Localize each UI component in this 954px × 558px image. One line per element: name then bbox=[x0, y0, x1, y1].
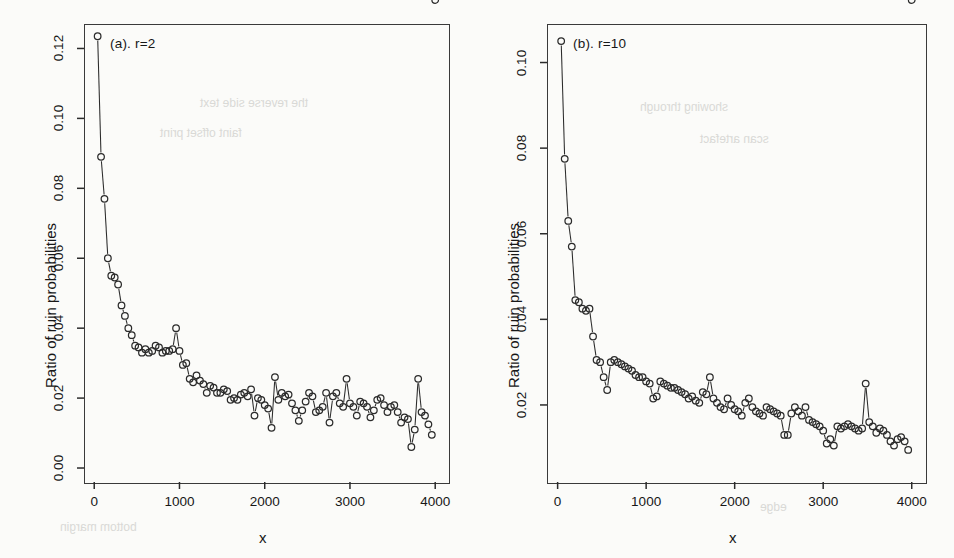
data-point bbox=[173, 325, 180, 332]
y-tick-label: 0.08 bbox=[513, 135, 528, 161]
data-point bbox=[105, 255, 112, 262]
chart-panel-b: (b). r=10 Ratio of ruin probabilities x … bbox=[463, 0, 954, 558]
data-point bbox=[742, 400, 749, 407]
data-point bbox=[408, 444, 415, 451]
x-tick-label: 3000 bbox=[783, 494, 863, 509]
data-point bbox=[820, 427, 827, 434]
data-point bbox=[248, 386, 255, 393]
y-tick-label: 0.02 bbox=[50, 385, 65, 411]
data-point bbox=[873, 429, 880, 436]
y-tick-label: 0.00 bbox=[50, 455, 65, 481]
data-point bbox=[125, 325, 132, 332]
data-point bbox=[425, 421, 432, 428]
data-point bbox=[590, 333, 597, 340]
x-tick-label: 1000 bbox=[139, 494, 219, 509]
data-point bbox=[600, 374, 607, 381]
data-point bbox=[795, 408, 802, 415]
data-point bbox=[799, 412, 806, 419]
plot-svg-a bbox=[0, 0, 477, 558]
data-point bbox=[604, 387, 611, 394]
data-point bbox=[299, 407, 306, 414]
data-point bbox=[901, 438, 908, 445]
data-point bbox=[891, 442, 898, 449]
data-point bbox=[94, 33, 101, 40]
data-point bbox=[429, 432, 436, 439]
data-point bbox=[728, 402, 735, 409]
data-point bbox=[411, 426, 418, 433]
data-point bbox=[251, 412, 258, 419]
data-point bbox=[343, 376, 350, 383]
data-point bbox=[561, 156, 568, 163]
x-tick-label: 1000 bbox=[606, 494, 686, 509]
data-point bbox=[275, 397, 282, 404]
data-point bbox=[802, 404, 809, 411]
data-point bbox=[101, 196, 108, 203]
data-point bbox=[323, 390, 330, 397]
data-point bbox=[371, 407, 378, 414]
x-tick-label: 2000 bbox=[695, 494, 775, 509]
data-point bbox=[296, 418, 303, 425]
y-tick-label: 0.06 bbox=[50, 245, 65, 271]
y-tick-label: 0.04 bbox=[50, 315, 65, 341]
data-point bbox=[862, 380, 869, 387]
data-point bbox=[115, 281, 122, 288]
data-point bbox=[118, 302, 125, 309]
data-point bbox=[869, 423, 876, 430]
y-tick-label: 0.06 bbox=[513, 221, 528, 247]
data-point bbox=[432, 0, 439, 3]
x-tick-label: 0 bbox=[54, 494, 134, 509]
data-point bbox=[866, 419, 873, 426]
data-point bbox=[203, 390, 210, 397]
y-tick-label: 0.10 bbox=[50, 105, 65, 131]
figure: the reverse side text faint offset print… bbox=[0, 0, 954, 558]
data-point bbox=[272, 374, 279, 381]
data-point bbox=[746, 395, 753, 402]
data-point bbox=[714, 400, 721, 407]
data-point bbox=[302, 398, 309, 405]
y-tick-label: 0.08 bbox=[50, 175, 65, 201]
data-point bbox=[394, 409, 401, 416]
x-tick-label: 0 bbox=[518, 494, 598, 509]
data-point bbox=[326, 419, 333, 426]
data-point bbox=[749, 404, 756, 411]
chart-panel-a: (a). r=2 Ratio of ruin probabilities x 0… bbox=[0, 0, 477, 558]
y-tick-label: 0.04 bbox=[513, 306, 528, 332]
data-point bbox=[710, 395, 717, 402]
data-point bbox=[884, 432, 891, 439]
data-point bbox=[268, 425, 275, 432]
data-point bbox=[568, 243, 575, 250]
data-point bbox=[128, 332, 135, 339]
data-point bbox=[558, 38, 565, 45]
data-point bbox=[827, 436, 834, 443]
data-point bbox=[738, 412, 745, 419]
data-point bbox=[415, 376, 422, 383]
data-point bbox=[707, 374, 714, 381]
data-point bbox=[823, 440, 830, 447]
data-point bbox=[788, 410, 795, 417]
data-point bbox=[292, 407, 299, 414]
data-point bbox=[724, 395, 731, 402]
data-point bbox=[353, 412, 360, 419]
y-tick-label: 0.12 bbox=[50, 35, 65, 61]
y-tick-label: 0.02 bbox=[513, 392, 528, 418]
x-tick-label: 2000 bbox=[225, 494, 305, 509]
data-point bbox=[831, 442, 838, 449]
data-point bbox=[887, 438, 894, 445]
data-point bbox=[908, 0, 915, 3]
data-point bbox=[792, 404, 799, 411]
x-tick-label: 3000 bbox=[310, 494, 390, 509]
data-point bbox=[381, 402, 388, 409]
data-point bbox=[565, 218, 572, 225]
data-point bbox=[98, 154, 105, 161]
y-tick-label: 0.10 bbox=[513, 49, 528, 75]
data-point bbox=[122, 313, 129, 320]
data-point bbox=[905, 447, 912, 454]
x-tick-label: 4000 bbox=[872, 494, 952, 509]
data-point bbox=[289, 400, 296, 407]
data-point bbox=[367, 414, 374, 421]
plot-svg-b bbox=[463, 0, 954, 558]
data-point bbox=[176, 348, 183, 355]
